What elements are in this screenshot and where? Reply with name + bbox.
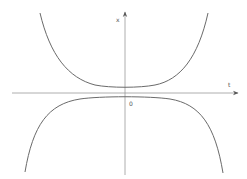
x-axis-label: x [116, 16, 120, 23]
lower-solution-curve [25, 97, 223, 173]
origin-label: 0 [129, 100, 133, 107]
t-axis-label: t [228, 81, 231, 88]
upper-solution-curve [40, 13, 208, 87]
diagram-canvas: x t 0 [0, 0, 247, 179]
